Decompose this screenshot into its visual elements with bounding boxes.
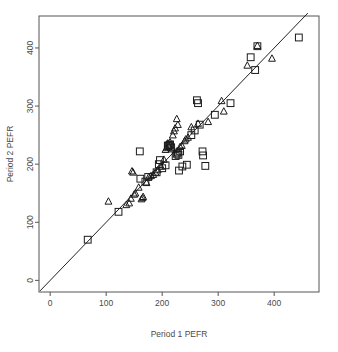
scatter-plot-figure: 01002003004000100200300400Period 1 PEFRP… xyxy=(0,0,338,352)
data-point-square xyxy=(295,34,302,41)
data-point-triangle xyxy=(220,108,227,114)
series-triangles xyxy=(105,42,275,208)
y-axis-title: Period 2 PEFR xyxy=(5,126,15,183)
y-axis-tick-label: 300 xyxy=(25,99,35,113)
y-axis-tick-label: 400 xyxy=(25,41,35,55)
x-axis-tick-label: 300 xyxy=(211,298,225,308)
x-axis-tick-label: 400 xyxy=(267,298,281,308)
data-point-triangle xyxy=(169,132,176,138)
data-point-square xyxy=(183,161,190,168)
axis-labels-layer: 01002003004000100200300400Period 1 PEFRP… xyxy=(5,41,282,339)
data-point-square xyxy=(247,54,254,61)
x-axis-tick-label: 100 xyxy=(99,298,113,308)
y-axis-tick-label: 0 xyxy=(25,278,35,283)
x-axis-tick-label: 200 xyxy=(155,298,169,308)
data-point-triangle xyxy=(244,62,251,68)
data-point-square xyxy=(227,100,234,107)
x-axis-title: Period 1 PEFR xyxy=(151,329,208,339)
data-point-square xyxy=(202,163,209,170)
y-axis-tick-label: 200 xyxy=(25,157,35,171)
y-axis-tick-label: 100 xyxy=(25,215,35,229)
x-axis-tick-label: 0 xyxy=(48,298,53,308)
data-point-triangle xyxy=(269,55,276,61)
data-point-square xyxy=(136,148,143,155)
data-point-triangle xyxy=(105,198,112,204)
data-point-triangle xyxy=(173,115,180,121)
plot-canvas: 01002003004000100200300400Period 1 PEFRP… xyxy=(0,0,338,352)
